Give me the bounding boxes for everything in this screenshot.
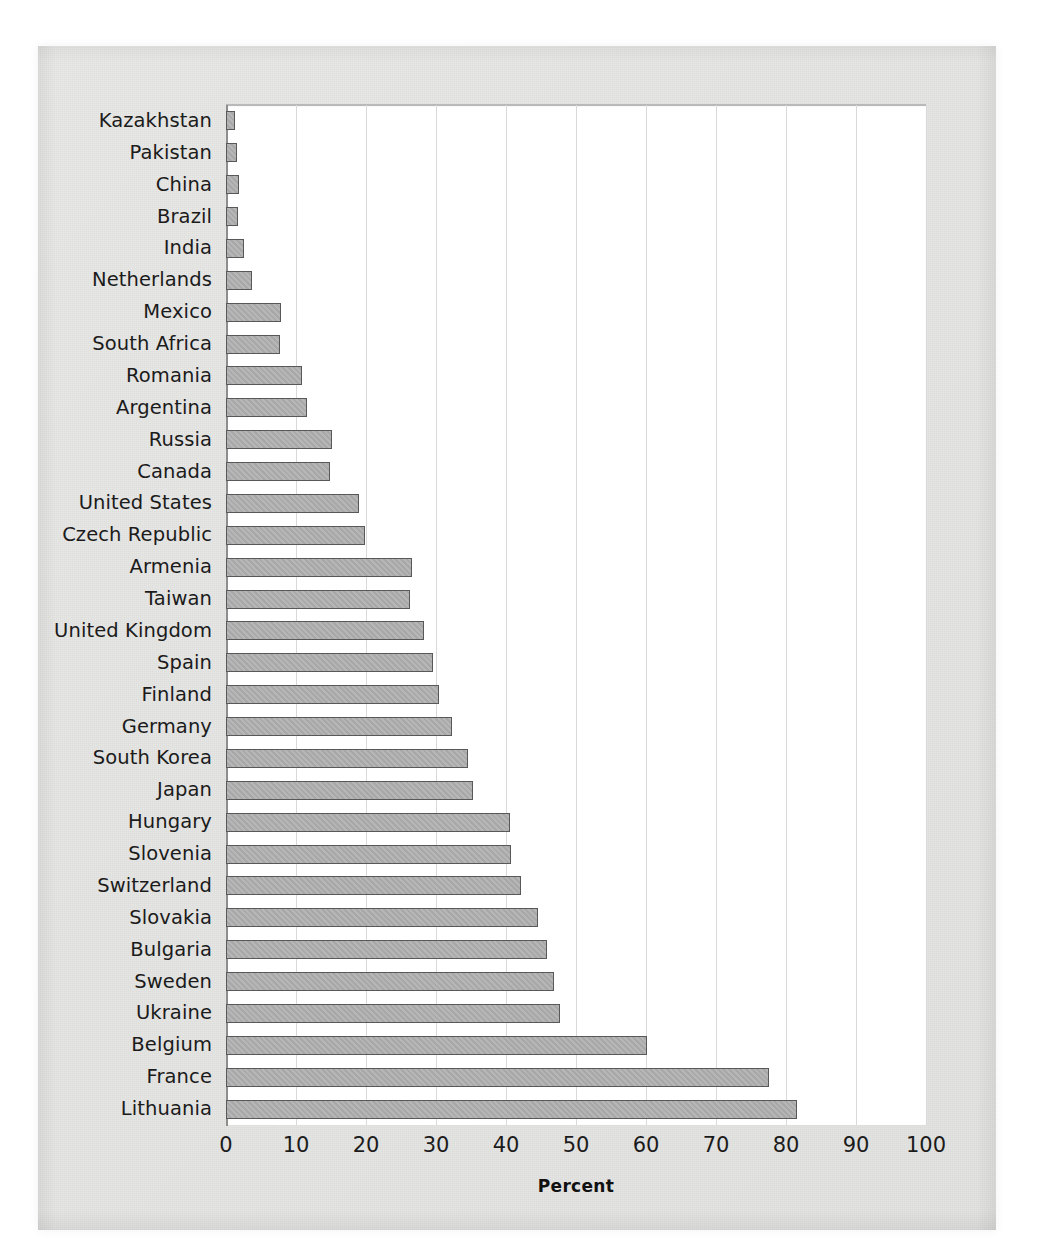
- bar: [226, 653, 433, 672]
- bar: [226, 940, 547, 959]
- bar: [226, 845, 511, 864]
- bar: [226, 526, 365, 545]
- bar: [226, 366, 302, 385]
- bar: [226, 303, 281, 322]
- category-label: Romania: [12, 365, 212, 387]
- x-tick-label: 50: [546, 1133, 606, 1157]
- bar: [226, 207, 238, 226]
- category-label: Spain: [12, 652, 212, 674]
- bar: [226, 558, 412, 577]
- x-tick-label: 30: [406, 1133, 466, 1157]
- category-label: Mexico: [12, 301, 212, 323]
- category-label: China: [12, 174, 212, 196]
- bar: [226, 908, 538, 927]
- category-label: Finland: [12, 684, 212, 706]
- x-tick-label: 20: [336, 1133, 396, 1157]
- category-label: Kazakhstan: [12, 110, 212, 132]
- category-label: Czech Republic: [12, 524, 212, 546]
- category-label: Slovenia: [12, 843, 212, 865]
- category-axis-labels: KazakhstanPakistanChinaBrazilIndiaNether…: [20, 105, 220, 1125]
- bar: [226, 1100, 797, 1119]
- x-tick-label: 60: [616, 1133, 676, 1157]
- x-tick-label: 80: [756, 1133, 816, 1157]
- x-axis-title: Percent: [226, 1176, 926, 1196]
- bar: [226, 621, 424, 640]
- category-label: France: [12, 1066, 212, 1088]
- x-tick-label: 10: [266, 1133, 326, 1157]
- bar: [226, 271, 252, 290]
- category-label: India: [12, 237, 212, 259]
- category-label: Belgium: [12, 1034, 212, 1056]
- bar: [226, 1004, 560, 1023]
- category-label: South Africa: [12, 333, 212, 355]
- bar: [226, 813, 510, 832]
- bar: [226, 111, 235, 130]
- bar: [226, 462, 330, 481]
- bar: [226, 717, 452, 736]
- bar: [226, 1036, 647, 1055]
- category-label: Argentina: [12, 397, 212, 419]
- category-label: Russia: [12, 429, 212, 451]
- category-label: Bulgaria: [12, 939, 212, 961]
- category-label: Lithuania: [12, 1098, 212, 1120]
- category-label: Sweden: [12, 971, 212, 993]
- category-label: Switzerland: [12, 875, 212, 897]
- bar: [226, 494, 359, 513]
- x-tick-label: 70: [686, 1133, 746, 1157]
- bar: [226, 239, 244, 258]
- bar: [226, 876, 521, 895]
- bar: [226, 335, 280, 354]
- category-label: South Korea: [12, 747, 212, 769]
- bar: [226, 685, 439, 704]
- x-tick-label: 0: [196, 1133, 256, 1157]
- category-label: Ukraine: [12, 1002, 212, 1024]
- bar: [226, 143, 237, 162]
- bar: [226, 430, 332, 449]
- x-tick-label: 100: [896, 1133, 956, 1157]
- category-label: Netherlands: [12, 269, 212, 291]
- gridline: [926, 105, 927, 1125]
- category-label: Taiwan: [12, 588, 212, 610]
- category-label: Germany: [12, 716, 212, 738]
- x-tick-label: 40: [476, 1133, 536, 1157]
- category-label: Slovakia: [12, 907, 212, 929]
- x-tick-label: 90: [826, 1133, 886, 1157]
- bar: [226, 781, 473, 800]
- category-label: United States: [12, 492, 212, 514]
- bar: [226, 175, 239, 194]
- value-axis-tick-labels: 0102030405060708090100: [226, 1133, 926, 1167]
- category-label: Brazil: [12, 206, 212, 228]
- category-label: Armenia: [12, 556, 212, 578]
- category-label: Canada: [12, 461, 212, 483]
- category-label: Pakistan: [12, 142, 212, 164]
- bar: [226, 749, 468, 768]
- category-label: United Kingdom: [12, 620, 212, 642]
- bars-layer: [226, 105, 926, 1125]
- category-label: Japan: [12, 779, 212, 801]
- bar: [226, 1068, 769, 1087]
- bar-chart-figure: KazakhstanPakistanChinaBrazilIndiaNether…: [0, 0, 1044, 1260]
- bar: [226, 398, 307, 417]
- scanned-page-figure: KazakhstanPakistanChinaBrazilIndiaNether…: [0, 0, 1044, 1260]
- category-label: Hungary: [12, 811, 212, 833]
- bar: [226, 590, 410, 609]
- bar: [226, 972, 554, 991]
